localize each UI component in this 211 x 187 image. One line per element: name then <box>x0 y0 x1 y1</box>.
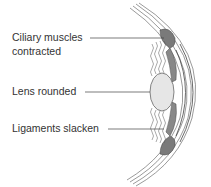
label-ciliary-muscles: Ciliary muscles contracted <box>12 31 83 58</box>
label-ciliary-line2: contracted <box>12 45 83 58</box>
label-ligaments-slacken: Ligaments slacken <box>12 122 99 135</box>
label-lens-rounded: Lens rounded <box>12 85 76 98</box>
lens <box>150 73 174 111</box>
label-ciliary-line1: Ciliary muscles <box>12 31 83 44</box>
